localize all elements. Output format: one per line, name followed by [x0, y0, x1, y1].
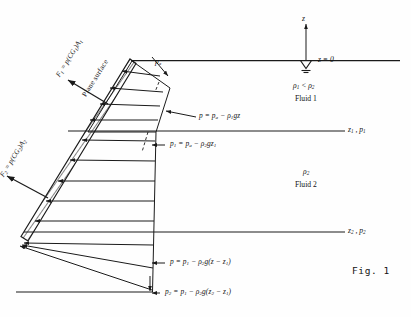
z-axis-label: z: [302, 15, 305, 24]
equation-interface: p1 = pa − ρ2gz1: [170, 140, 216, 149]
diagram-svg: [0, 0, 411, 317]
equation-fluid1: p = pa − ρ1gz: [199, 112, 240, 121]
equation-bottom: p2 = p1 − ρ2g(z2 − z1): [165, 288, 231, 297]
equation-fluid2: p = p1 − ρ2g(z − z1): [170, 258, 231, 267]
fluid2-label: Fluid 2: [295, 181, 317, 190]
level1-label: z1 , p1: [348, 126, 366, 135]
datum-label: z = 0: [318, 56, 334, 65]
rho2-label: ρ2: [303, 168, 309, 177]
density-comparison-label: ρ1 < ρ2: [293, 82, 314, 91]
free-surface-triangle-icon: [301, 61, 312, 73]
figure-caption: Fig. 1: [352, 265, 390, 276]
force-arrow-F2: [7, 176, 48, 198]
fluid1-label: Fluid 1: [295, 95, 317, 104]
level2-label: z2 , p2: [348, 227, 366, 236]
figure-canvas: F1 = p(CG1)A1 F2 = p(CG2)A2 Plane surfac…: [0, 0, 411, 317]
pa-label: pa: [155, 58, 161, 67]
prism-dashed-guides: [142, 82, 159, 152]
